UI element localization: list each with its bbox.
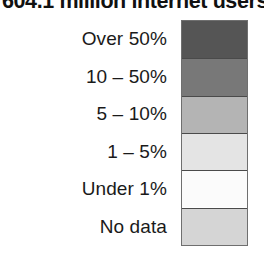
- legend-label-over-50: Over 50%: [0, 20, 167, 58]
- legend-label-5-10: 5 – 10%: [0, 95, 167, 133]
- legend-swatch-under-1: [182, 170, 247, 207]
- legend-swatch-no-data: [182, 208, 247, 245]
- legend-label-under-1: Under 1%: [0, 170, 167, 208]
- legend-label-1-5: 1 – 5%: [0, 133, 167, 171]
- page-title: 604.1 million internet users: [2, 0, 264, 14]
- figure-title-clip: 604.1 million internet users: [0, 0, 264, 15]
- legend-swatch-5-10: [182, 96, 247, 133]
- legend-swatch-over-50: [182, 21, 247, 58]
- legend-swatch-1-5: [182, 133, 247, 170]
- legend-swatch-column: [181, 20, 248, 246]
- legend-label-10-50: 10 – 50%: [0, 58, 167, 96]
- legend-figure: 604.1 million internet users Over 50% 10…: [0, 0, 264, 259]
- map-legend: Over 50% 10 – 50% 5 – 10% 1 – 5% Under 1…: [0, 20, 264, 246]
- legend-label-column: Over 50% 10 – 50% 5 – 10% 1 – 5% Under 1…: [0, 20, 167, 246]
- legend-label-no-data: No data: [0, 208, 167, 246]
- legend-swatch-10-50: [182, 58, 247, 95]
